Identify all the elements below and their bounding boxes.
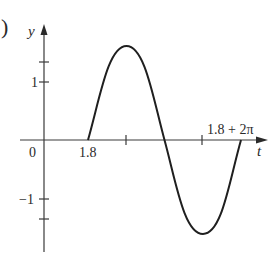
y-tick-label-neg1: −1	[19, 192, 34, 207]
y-axis-arrow-icon	[41, 24, 48, 35]
x-axis-label: t	[257, 143, 262, 159]
y-axis-label: y	[26, 23, 35, 39]
x-tick-label-end: 1.8 + 2π	[207, 122, 253, 137]
y-tick-label-1: 1	[31, 75, 38, 90]
sinusoid-figure: ) y 1 −1 0 1.8 1.8 + 2π t	[0, 0, 271, 257]
panel-marker: )	[1, 14, 8, 39]
origin-label: 0	[29, 145, 36, 160]
x-tick-label-start: 1.8	[79, 145, 97, 160]
y-axis	[39, 24, 49, 252]
